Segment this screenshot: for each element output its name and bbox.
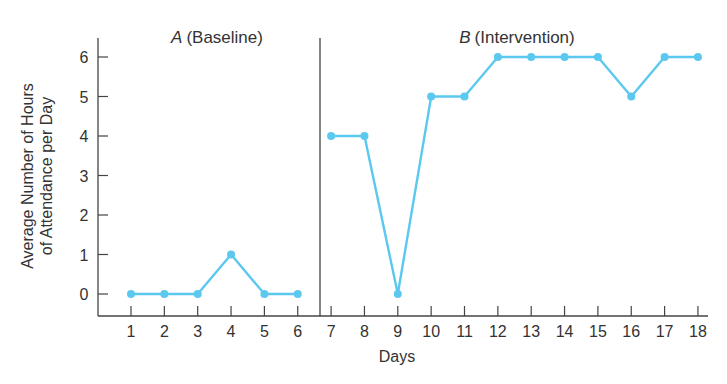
data-point <box>694 53 702 61</box>
x-tick-label: 4 <box>227 323 236 340</box>
x-tick-label: 6 <box>293 323 302 340</box>
x-tick-label: 5 <box>260 323 269 340</box>
data-point <box>461 93 469 101</box>
y-tick-label: 5 <box>80 89 89 106</box>
phase-b-label: B(Intervention) <box>459 28 575 47</box>
svg-text:Average Number of Hours: Average Number of Hours <box>19 83 36 269</box>
x-tick-label: 16 <box>622 323 640 340</box>
data-series <box>127 53 702 298</box>
data-point <box>527 53 535 61</box>
phase-a-label: A(Baseline) <box>170 28 263 47</box>
x-tick-label: 2 <box>160 323 169 340</box>
x-tick-label: 10 <box>422 323 440 340</box>
data-point <box>394 290 402 298</box>
data-point <box>494 53 502 61</box>
data-point <box>260 290 268 298</box>
data-point <box>160 290 168 298</box>
y-tick-label: 0 <box>80 286 89 303</box>
x-tick-label: 3 <box>193 323 202 340</box>
data-point <box>327 132 335 140</box>
x-tick-label: 15 <box>589 323 607 340</box>
data-point <box>561 53 569 61</box>
x-tick-label: 18 <box>689 323 707 340</box>
x-tick-label: 8 <box>360 323 369 340</box>
svg-text:of Attendance per Day: of Attendance per Day <box>38 97 55 255</box>
data-point <box>594 53 602 61</box>
x-axis-title: Days <box>379 348 415 365</box>
phase-a-line <box>131 255 298 295</box>
data-point <box>194 290 202 298</box>
phase-b-line <box>331 57 698 294</box>
data-point <box>360 132 368 140</box>
data-point <box>294 290 302 298</box>
x-tick-label: 12 <box>489 323 507 340</box>
x-tick-label: 17 <box>656 323 674 340</box>
y-tick-label: 4 <box>80 128 89 145</box>
y-tick-label: 6 <box>80 49 89 66</box>
y-tick-label: 3 <box>80 168 89 185</box>
y-tick-label: 1 <box>80 247 89 264</box>
data-point <box>661 53 669 61</box>
y-axis-title: Average Number of Hours of Attendance pe… <box>19 83 55 269</box>
chart: 0123456123456789101112131415161718 A(Bas… <box>0 0 727 384</box>
data-point <box>127 290 135 298</box>
y-tick-label: 2 <box>80 207 89 224</box>
x-tick-label: 11 <box>456 323 473 340</box>
x-tick-label: 13 <box>522 323 540 340</box>
x-tick-label: 9 <box>393 323 402 340</box>
x-tick-label: 14 <box>556 323 574 340</box>
x-tick-label: 1 <box>127 323 136 340</box>
data-point <box>427 93 435 101</box>
data-point <box>627 93 635 101</box>
data-point <box>227 251 235 259</box>
x-tick-label: 7 <box>327 323 336 340</box>
